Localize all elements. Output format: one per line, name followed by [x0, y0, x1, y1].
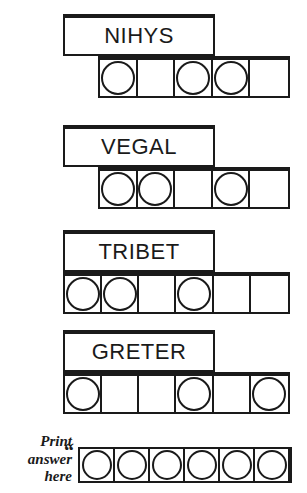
- letter-cell[interactable]: [65, 376, 102, 412]
- letter-cell[interactable]: [138, 60, 176, 96]
- scrambled-word-text: GRETER: [92, 341, 187, 363]
- circle-marker-icon: [252, 377, 286, 411]
- letter-cell[interactable]: [251, 276, 288, 312]
- circle-marker-icon: [103, 277, 137, 311]
- letter-cell[interactable]: [150, 449, 185, 481]
- scrambled-word-box: TRIBET: [63, 230, 215, 272]
- circle-marker-icon: [66, 377, 100, 411]
- letter-cell[interactable]: [251, 376, 288, 412]
- circle-marker-icon: [101, 61, 135, 95]
- scrambled-word-box: NIHYS: [63, 14, 215, 56]
- circle-marker-icon: [187, 450, 217, 480]
- answer-label-line-1: Print: [0, 433, 72, 451]
- circle-marker-icon: [101, 172, 135, 206]
- letter-cell[interactable]: [65, 276, 102, 312]
- letter-cell[interactable]: [250, 60, 288, 96]
- circle-marker-icon: [66, 277, 100, 311]
- letter-cell[interactable]: [220, 449, 255, 481]
- opening-quote-mark: “: [64, 441, 74, 461]
- letter-cell[interactable]: [100, 60, 138, 96]
- letter-cell[interactable]: [213, 60, 251, 96]
- letter-cell-strip[interactable]: [63, 272, 290, 314]
- circle-marker-icon: [176, 61, 210, 95]
- answer-label-line-2: answer: [0, 451, 72, 469]
- letter-cell[interactable]: [176, 276, 213, 312]
- letter-cell-strip[interactable]: [98, 56, 290, 98]
- circle-marker-icon: [152, 450, 182, 480]
- circle-marker-icon: [257, 450, 287, 480]
- letter-cell[interactable]: [214, 276, 251, 312]
- letter-cell[interactable]: [102, 376, 139, 412]
- circle-marker-icon: [138, 172, 172, 206]
- letter-cell[interactable]: [255, 449, 290, 481]
- letter-cell[interactable]: [185, 449, 220, 481]
- answer-label-line-3: here: [0, 468, 72, 486]
- letter-cell[interactable]: [175, 171, 213, 207]
- scrambled-word-text: VEGAL: [101, 136, 177, 158]
- letter-cell[interactable]: [102, 276, 139, 312]
- letter-cell[interactable]: [115, 449, 150, 481]
- letter-cell[interactable]: [80, 449, 115, 481]
- scrambled-word-box: GRETER: [63, 330, 215, 372]
- circle-marker-icon: [214, 61, 248, 95]
- letter-cell[interactable]: [213, 171, 251, 207]
- scrambled-word-worksheet: NIHYSVEGALTRIBETGRETER Print answer here…: [0, 0, 307, 493]
- scrambled-word-text: TRIBET: [98, 241, 179, 263]
- circle-marker-icon: [222, 450, 252, 480]
- scrambled-word-text: NIHYS: [104, 25, 174, 47]
- scrambled-word-box: VEGAL: [63, 125, 215, 167]
- circle-marker-icon: [177, 377, 211, 411]
- circle-marker-icon: [177, 277, 211, 311]
- circle-marker-icon: [82, 450, 112, 480]
- print-answer-here-label: Print answer here: [0, 433, 72, 486]
- answer-cell-strip[interactable]: [78, 447, 292, 483]
- letter-cell-strip[interactable]: [98, 167, 290, 209]
- circle-marker-icon: [214, 172, 248, 206]
- letter-cell[interactable]: [100, 171, 138, 207]
- letter-cell[interactable]: [250, 171, 288, 207]
- letter-cell[interactable]: [138, 171, 176, 207]
- letter-cell-strip[interactable]: [63, 372, 290, 414]
- letter-cell[interactable]: [175, 60, 213, 96]
- letter-cell[interactable]: [176, 376, 213, 412]
- circle-marker-icon: [117, 450, 147, 480]
- letter-cell[interactable]: [214, 376, 251, 412]
- letter-cell[interactable]: [139, 276, 176, 312]
- letter-cell[interactable]: [139, 376, 176, 412]
